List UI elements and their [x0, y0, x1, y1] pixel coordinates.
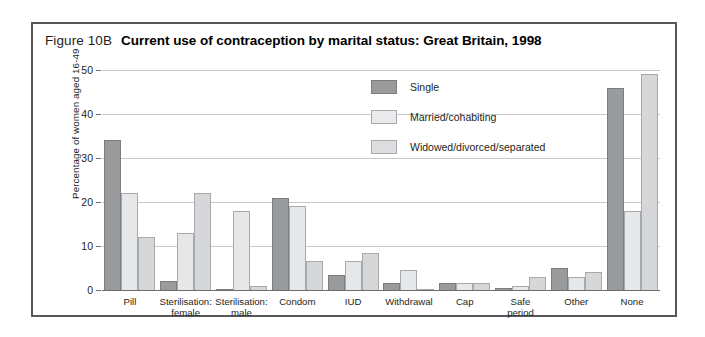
- bar: [495, 288, 512, 290]
- y-axis-tick-label: 40: [81, 108, 93, 120]
- bar-group: None: [604, 70, 660, 290]
- bar: [138, 237, 155, 290]
- bar-group: Other: [548, 70, 604, 290]
- bar: [289, 206, 306, 290]
- bar: [362, 253, 379, 290]
- y-axis-tick-mark: [96, 70, 101, 71]
- y-axis-tick-mark: [96, 202, 101, 203]
- bar: [345, 261, 362, 290]
- y-axis-tick-label: 50: [81, 64, 93, 76]
- bar: [233, 211, 250, 290]
- y-axis-tick-mark: [96, 158, 101, 159]
- x-axis-tick-label: Condom: [279, 296, 315, 307]
- bar-group: Condom: [269, 70, 325, 290]
- x-axis-tick-label: Other: [564, 296, 588, 307]
- legend-item: Married/cohabiting: [371, 110, 545, 124]
- bar-group: Sterilisation: male: [214, 70, 270, 290]
- bar: [456, 283, 473, 290]
- y-axis-tick-label: 10: [81, 240, 93, 252]
- page-title: Current use of contraception by marital …: [121, 33, 542, 48]
- bar: [104, 140, 121, 290]
- y-axis-tick-mark: [96, 246, 101, 247]
- y-axis-tick-mark: [96, 114, 101, 115]
- bar: [512, 286, 529, 290]
- figure-frame: Figure 10B Current use of contraception …: [31, 22, 677, 317]
- x-axis-line: [102, 290, 660, 291]
- legend-label: Widowed/divorced/separated: [410, 141, 545, 153]
- bar: [529, 277, 546, 290]
- figure-header: Figure 10B Current use of contraception …: [45, 33, 542, 48]
- y-axis-tick-label: 20: [81, 196, 93, 208]
- bar: [585, 272, 602, 290]
- bar: [383, 283, 400, 290]
- x-axis-tick-label: Withdrawal: [385, 296, 432, 307]
- bar: [306, 261, 323, 290]
- bar: [250, 286, 267, 290]
- x-axis-tick-label: Safe period: [507, 296, 535, 318]
- x-axis-tick-label: Sterilisation: female: [160, 296, 212, 318]
- bar: [551, 268, 568, 290]
- bar: [624, 211, 641, 290]
- bar: [272, 198, 289, 290]
- legend-swatch: [371, 140, 397, 154]
- bar: [417, 289, 434, 290]
- x-axis-tick-label: Pill: [123, 296, 136, 307]
- bar: [400, 270, 417, 290]
- y-axis-tick-label: 0: [87, 284, 93, 296]
- legend-item: Widowed/divorced/separated: [371, 140, 545, 154]
- legend-label: Single: [410, 81, 439, 93]
- chart-legend: SingleMarried/cohabitingWidowed/divorced…: [371, 80, 545, 154]
- bar: [160, 281, 177, 290]
- bar: [121, 193, 138, 290]
- bar: [473, 283, 490, 290]
- bar: [641, 74, 658, 290]
- legend-label: Married/cohabiting: [410, 111, 496, 123]
- x-axis-tick-label: Cap: [456, 296, 474, 307]
- legend-swatch: [371, 110, 397, 124]
- bar-group: Pill: [102, 70, 158, 290]
- y-axis-title: Percentage of women aged 16-49: [70, 48, 81, 199]
- legend-item: Single: [371, 80, 545, 94]
- bar: [328, 275, 345, 290]
- bar: [216, 289, 233, 290]
- bar: [194, 193, 211, 290]
- legend-swatch: [371, 80, 397, 94]
- x-axis-tick-label: IUD: [345, 296, 362, 307]
- x-axis-tick-label: Sterilisation: male: [215, 296, 267, 318]
- bar: [568, 277, 585, 290]
- figure-number: Figure 10B: [45, 33, 112, 48]
- bar: [607, 88, 624, 290]
- y-axis-tick-label: 30: [81, 152, 93, 164]
- bar: [177, 233, 194, 290]
- bar-group: Sterilisation: female: [158, 70, 214, 290]
- y-axis-tick-mark: [96, 290, 101, 291]
- bar: [439, 283, 456, 290]
- x-axis-tick-label: None: [621, 296, 644, 307]
